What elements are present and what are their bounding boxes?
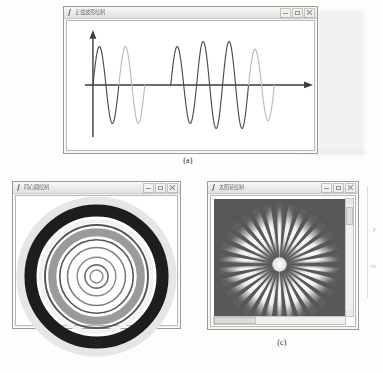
vertical-scrollbar[interactable] bbox=[345, 198, 354, 317]
scroll-down-arrow-icon[interactable] bbox=[346, 310, 353, 316]
window-controls[interactable] bbox=[143, 183, 178, 193]
figure-page: 正弦波形绘制 (a) 同心圆绘制 (b) bbox=[0, 0, 383, 373]
titlebar[interactable]: 太阳花绘制 bbox=[208, 182, 358, 194]
page-edge-line bbox=[367, 186, 368, 298]
window-concentric-circles[interactable]: 同心圆绘制 bbox=[12, 181, 181, 329]
figure-caption-c: (c) bbox=[252, 338, 312, 347]
maximize-button[interactable] bbox=[333, 183, 344, 193]
figure-caption-b: (b) bbox=[66, 338, 126, 347]
margin-text-fragment: F bbox=[373, 226, 377, 233]
minimize-button[interactable] bbox=[143, 183, 154, 193]
figure-caption-a: (a) bbox=[158, 156, 218, 165]
window-title: 同心圆绘制 bbox=[24, 184, 50, 191]
maximize-button[interactable] bbox=[155, 183, 166, 193]
margin-text-fragment: nr bbox=[371, 262, 376, 269]
window-sine-wave[interactable]: 正弦波形绘制 bbox=[63, 6, 318, 154]
minimize-button[interactable] bbox=[280, 8, 291, 18]
horizontal-scrollbar[interactable] bbox=[213, 316, 346, 325]
scroll-up-arrow-icon[interactable] bbox=[346, 199, 353, 205]
window-client-area bbox=[210, 195, 356, 327]
scan-smudge bbox=[318, 10, 364, 154]
scrollbar-thumb[interactable] bbox=[346, 207, 353, 225]
close-button[interactable] bbox=[345, 183, 356, 193]
sunflower-canvas-area bbox=[214, 199, 345, 317]
window-title: 正弦波形绘制 bbox=[75, 9, 106, 16]
scrollbar-thumb[interactable] bbox=[214, 317, 256, 324]
app-icon bbox=[67, 9, 73, 16]
concentric-rings-plot bbox=[16, 196, 177, 357]
sunflower-plot bbox=[214, 199, 345, 317]
window-title: 太阳花绘制 bbox=[219, 184, 245, 191]
window-client-area bbox=[15, 195, 178, 326]
sine-wave-plot bbox=[67, 21, 314, 149]
titlebar[interactable]: 同心圆绘制 bbox=[13, 182, 180, 194]
close-button[interactable] bbox=[304, 8, 315, 18]
window-controls[interactable] bbox=[321, 183, 356, 193]
app-icon bbox=[211, 184, 217, 191]
app-icon bbox=[16, 184, 22, 191]
window-client-area bbox=[66, 20, 315, 151]
minimize-button[interactable] bbox=[321, 183, 332, 193]
window-controls[interactable] bbox=[280, 8, 315, 18]
window-sunflower[interactable]: 太阳花绘制 bbox=[207, 181, 359, 330]
maximize-button[interactable] bbox=[292, 8, 303, 18]
titlebar[interactable]: 正弦波形绘制 bbox=[64, 7, 317, 19]
close-button[interactable] bbox=[167, 183, 178, 193]
